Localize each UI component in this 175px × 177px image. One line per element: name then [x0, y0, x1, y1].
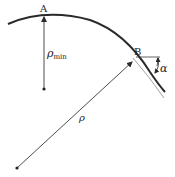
main-curve: [8, 15, 165, 92]
curvature-diagram: A B ρmin ρ α: [0, 0, 175, 177]
rho-arrow: [17, 62, 132, 168]
label-rho: ρ: [78, 112, 85, 123]
rho-min-subscript: min: [53, 53, 67, 61]
label-point-a: A: [39, 3, 48, 14]
label-point-b: B: [134, 46, 141, 57]
rho-min-center-dot: [42, 87, 45, 90]
label-alpha: α: [160, 62, 168, 75]
alpha-angle-arc-top: [157, 58, 158, 66]
label-rho-min: ρmin: [46, 47, 67, 61]
rho-center-dot: [15, 166, 18, 169]
